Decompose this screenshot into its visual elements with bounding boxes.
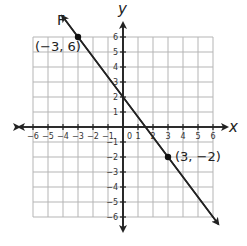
svg-text:−5: −5 — [42, 132, 54, 141]
svg-text:4: 4 — [113, 63, 118, 72]
svg-text:−1: −1 — [106, 138, 118, 147]
svg-text:−3: −3 — [106, 168, 118, 177]
svg-text:−6: −6 — [27, 132, 39, 141]
svg-text:4: 4 — [180, 132, 185, 141]
point-label-2: (3, −2) — [175, 149, 221, 164]
svg-text:−3: −3 — [72, 132, 84, 141]
svg-text:5: 5 — [195, 132, 200, 141]
svg-text:1: 1 — [113, 108, 118, 117]
svg-text:5: 5 — [113, 48, 118, 57]
svg-text:−4: −4 — [57, 132, 69, 141]
plot-line — [62, 16, 218, 224]
svg-text:−2: −2 — [87, 132, 99, 141]
svg-text:1: 1 — [135, 132, 140, 141]
svg-text:0: 0 — [127, 132, 132, 141]
coordinate-plane: −6−5−4−3−2−1123456654321−1−2−3−4−5−60 x … — [0, 0, 247, 246]
svg-text:−5: −5 — [106, 198, 118, 207]
svg-text:−2: −2 — [106, 153, 118, 162]
svg-text:−4: −4 — [106, 183, 118, 192]
svg-text:6: 6 — [113, 33, 118, 42]
svg-text:−6: −6 — [106, 213, 118, 222]
svg-text:3: 3 — [165, 132, 170, 141]
axes — [19, 23, 227, 231]
line-name-label: F — [57, 12, 65, 28]
point-label-1: (−3, 6) — [35, 39, 81, 54]
x-axis-label: x — [228, 118, 238, 136]
svg-text:2: 2 — [113, 93, 118, 102]
y-axis-label: y — [117, 0, 128, 18]
svg-text:6: 6 — [210, 132, 215, 141]
